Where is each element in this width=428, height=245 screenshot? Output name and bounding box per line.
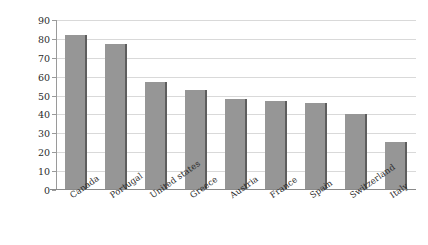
plot-area: 0102030405060708090 (56, 20, 416, 190)
y-axis-tick-label: 50 (38, 90, 50, 101)
bar (305, 103, 327, 190)
bar (105, 44, 127, 190)
y-axis-tick-label: 90 (38, 15, 50, 26)
bar (265, 101, 287, 190)
bars-layer (56, 20, 416, 190)
y-axis-tick-label: 0 (44, 185, 50, 196)
y-axis-tick-label: 20 (38, 147, 50, 158)
bar (65, 35, 87, 190)
y-axis-tick-label: 40 (38, 109, 50, 120)
y-axis-tick-label: 60 (38, 71, 50, 82)
y-axis-tick (52, 190, 56, 191)
bar (225, 99, 247, 190)
y-axis-line (56, 20, 57, 190)
bar (145, 82, 167, 190)
bar (345, 114, 367, 190)
y-axis-tick-label: 30 (38, 128, 50, 139)
bar-chart: Assimilation Index 0102030405060708090 C… (0, 0, 428, 245)
x-axis-labels: CanadaPortugalUnited statesGreeceAustria… (56, 192, 416, 245)
y-axis-tick-label: 10 (38, 166, 50, 177)
y-axis-tick-label: 80 (38, 33, 50, 44)
y-axis-tick-label: 70 (38, 52, 50, 63)
